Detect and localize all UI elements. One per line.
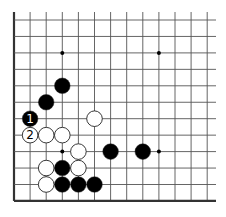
- white-stone: [38, 177, 54, 193]
- star-point: [157, 51, 161, 55]
- black-stone: [87, 177, 103, 193]
- black-stone: [135, 144, 151, 160]
- move-number-label: 1: [26, 112, 34, 126]
- black-stone: [55, 78, 71, 94]
- black-stone: [38, 94, 54, 110]
- white-stone: [71, 144, 87, 160]
- white-stone: [55, 127, 71, 143]
- star-point: [157, 150, 161, 154]
- star-point: [60, 51, 64, 55]
- go-board-diagram: 12: [0, 0, 226, 217]
- move-number-label: 2: [26, 128, 34, 142]
- white-stone: [87, 111, 103, 127]
- white-stone: [38, 160, 54, 176]
- black-stone: [103, 144, 119, 160]
- white-stone: [71, 160, 87, 176]
- white-stone: [38, 127, 54, 143]
- black-stone-move-1: 1: [22, 111, 38, 127]
- black-stone: [71, 177, 87, 193]
- black-stone: [55, 177, 71, 193]
- white-stone-move-2: 2: [22, 127, 38, 143]
- star-point: [60, 150, 64, 154]
- black-stone: [55, 160, 71, 176]
